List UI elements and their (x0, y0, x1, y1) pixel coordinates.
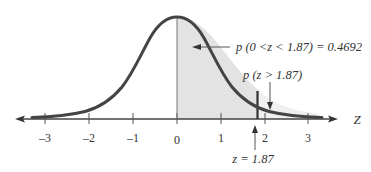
axis-label: Z (353, 112, 361, 127)
z-marker-label: z = 1.87 (231, 152, 274, 166)
tick-label: –3 (38, 131, 51, 145)
normal-distribution-diagram: –3 –2 –1 0 1 2 3 Z p (0 <z < 1.87) = 0.4… (0, 0, 371, 172)
z-marker-arrow-head-icon (252, 125, 258, 133)
tick-label: 3 (305, 131, 311, 145)
tick-label: 0 (174, 133, 180, 147)
tick-label: –1 (126, 131, 139, 145)
area-annotation-label: p (0 <z < 1.87) = 0.4692 (235, 40, 362, 54)
tail-annotation-label: p (z > 1.87) (242, 68, 302, 82)
tick-label: 2 (262, 131, 268, 145)
tick-label: 1 (218, 131, 224, 145)
tick-label: –2 (82, 131, 95, 145)
